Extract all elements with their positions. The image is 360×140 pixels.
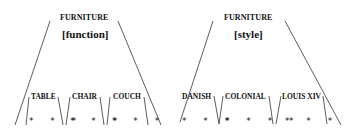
- tree1-leaf-label: TABLE: [31, 92, 56, 101]
- tree1-root-label: FURNITURE: [60, 13, 108, 22]
- tree2-leaf-label: DANISH: [182, 92, 211, 101]
- tree2-right-edge: [285, 21, 341, 125]
- tree1-right-edge: [118, 21, 161, 125]
- tree2-left-edge: [180, 21, 213, 122]
- tree1-left-edge: [15, 21, 50, 125]
- tree1-leaf-stars: * * *: [112, 116, 166, 126]
- tree1-leaf-label: COUCH: [113, 92, 141, 101]
- tree2-root-label: FURNITURE: [224, 13, 272, 22]
- tree1-feature-label: [function]: [62, 28, 108, 40]
- tree2-feature-label: [style]: [234, 28, 263, 40]
- tree2-leaf-stars: * * *: [285, 116, 339, 126]
- tree1-leaf-label: CHAIR: [72, 92, 97, 101]
- tree2-leaf-label: COLONIAL: [225, 92, 266, 101]
- tree2-leaf-label: LOUIS XIV: [282, 92, 321, 101]
